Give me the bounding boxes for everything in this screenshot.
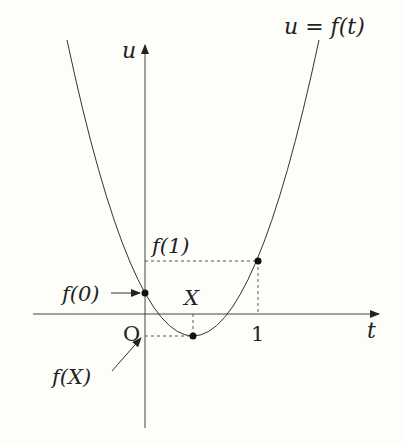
point-vertex: [190, 333, 197, 340]
curve-label: u = f(t): [284, 14, 365, 39]
origin-label: O: [123, 322, 140, 346]
t-axis-label: t: [367, 318, 376, 343]
u-axis-label: u: [122, 38, 136, 63]
point-f0: [142, 290, 149, 297]
X-label: X: [182, 286, 200, 310]
f0-label: f(0): [60, 282, 100, 306]
tick-one-label: 1: [251, 322, 264, 346]
f1-label: f(1): [150, 234, 190, 258]
graph-canvas: u = f(t) u t O 1 X f(1) f(0) f(X): [0, 0, 403, 444]
fX-label: f(X): [50, 365, 91, 389]
point-f1: [255, 258, 262, 265]
function-graph-diagram: u = f(t) u t O 1 X f(1) f(0) f(X): [0, 0, 403, 444]
